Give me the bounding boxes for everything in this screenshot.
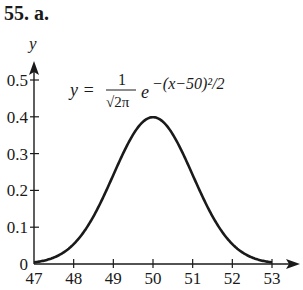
y-tick-label: 0.3 [7, 145, 28, 164]
x-tick-label: 47 [26, 269, 44, 288]
y-tick-label: 0 [20, 255, 29, 274]
y-tick-label: 0.4 [7, 108, 29, 127]
y-tick-label: 0.2 [7, 181, 28, 200]
equation-base: e [141, 82, 149, 102]
normal-curve-chart: 47484950515253 00.10.20.30.40.5 y y = 1 … [0, 0, 303, 290]
equation-numerator: 1 [118, 71, 126, 88]
y-axis-title: y [27, 34, 37, 53]
y-tick-label: 0.5 [7, 71, 28, 90]
y-tick-label: 0.1 [7, 218, 28, 237]
equation-exponent: −(x−50)²/2 [152, 75, 225, 93]
normal-curve [34, 117, 272, 262]
x-tick-label: 51 [184, 269, 201, 288]
x-tick-label: 48 [65, 269, 82, 288]
y-tick-labels: 00.10.20.30.40.5 [7, 71, 29, 274]
x-tick-label: 49 [105, 269, 122, 288]
x-tick-label: 52 [224, 269, 241, 288]
x-tick-labels: 47484950515253 [26, 269, 281, 288]
equation-lhs: y = [68, 80, 95, 100]
x-tick-label: 50 [145, 269, 162, 288]
equation-annotation: y = 1 √2π e −(x−50)²/2 [68, 71, 225, 110]
equation-denominator: √2π [106, 94, 130, 110]
x-tick-label: 53 [264, 269, 281, 288]
